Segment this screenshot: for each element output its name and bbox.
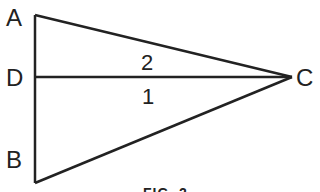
- triangle-diagram: [0, 0, 320, 192]
- figure-caption: FIG. 2: [143, 185, 188, 192]
- segment-ac: [35, 15, 292, 77]
- segment-bc: [35, 77, 292, 183]
- angle-label-1: 1: [142, 86, 154, 108]
- vertex-label-c: C: [296, 66, 313, 90]
- vertex-label-a: A: [6, 6, 22, 30]
- vertex-label-d: D: [6, 66, 23, 90]
- angle-label-2: 2: [141, 52, 153, 74]
- vertex-label-b: B: [6, 148, 22, 172]
